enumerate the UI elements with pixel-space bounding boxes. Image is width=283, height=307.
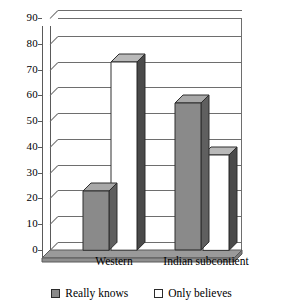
y-axis-outer-line bbox=[42, 26, 43, 258]
y-axis-tick-mark bbox=[38, 95, 42, 96]
bar-really-knows bbox=[175, 95, 209, 250]
gridline bbox=[58, 87, 242, 88]
y-axis-tick-mark bbox=[38, 224, 42, 225]
y-axis-tick-mark bbox=[38, 121, 42, 122]
y-axis-tick-label: 0 bbox=[12, 244, 38, 255]
y-axis-tick-label: 10 bbox=[12, 218, 38, 229]
gridline bbox=[58, 36, 242, 37]
y-axis-tick-label: 70 bbox=[12, 64, 38, 75]
legend: Really knows Only believes bbox=[0, 283, 283, 303]
y-axis-tick-label: 80 bbox=[12, 38, 38, 49]
legend-item-really-knows: Really knows bbox=[51, 287, 128, 299]
bar-really-knows bbox=[83, 183, 117, 250]
bar-chart: 9080706050403020100 WesternIndian subcon… bbox=[0, 0, 283, 307]
gray-swatch-icon bbox=[51, 289, 60, 298]
y-axis-tick-label: 60 bbox=[12, 89, 38, 100]
gridline bbox=[58, 10, 242, 11]
y-axis-tick-label: 20 bbox=[12, 192, 38, 203]
y-axis-tick-label: 30 bbox=[12, 167, 38, 178]
y-axis-tick-mark bbox=[38, 147, 42, 148]
gridline bbox=[58, 113, 242, 114]
legend-label-only-believes: Only believes bbox=[168, 287, 232, 299]
legend-label-really-knows: Really knows bbox=[65, 287, 128, 299]
y-axis-tick-label: 50 bbox=[12, 115, 38, 126]
y-axis-tick-label: 90 bbox=[12, 12, 38, 23]
y-axis-tick-mark bbox=[38, 70, 42, 71]
y-axis-tick-mark bbox=[38, 44, 42, 45]
y-axis-tick-label: 40 bbox=[12, 141, 38, 152]
legend-item-only-believes: Only believes bbox=[154, 287, 232, 299]
x-axis-label: Indian subcontient bbox=[136, 255, 276, 267]
y-axis-tick-mark bbox=[38, 18, 42, 19]
y-axis-tick-mark bbox=[38, 198, 42, 199]
plot-area: 9080706050403020100 WesternIndian subcon… bbox=[0, 0, 283, 275]
gridline bbox=[58, 62, 242, 63]
y-axis-tick-mark bbox=[38, 173, 42, 174]
white-swatch-icon bbox=[154, 289, 163, 298]
gridline bbox=[58, 139, 242, 140]
